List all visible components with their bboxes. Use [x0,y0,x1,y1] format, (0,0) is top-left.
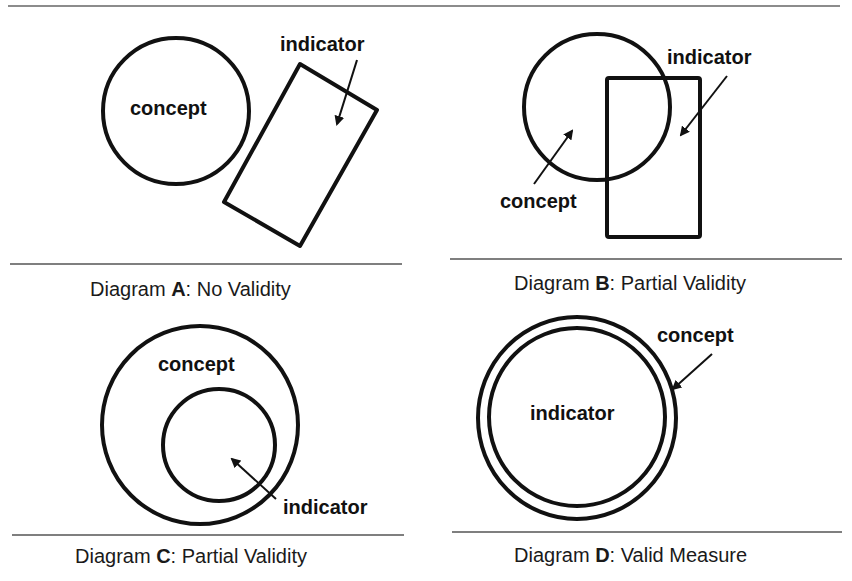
caption-a: Diagram A: No Validity [90,278,291,301]
indicator-rectangle-b [607,78,700,237]
diagram-a: concept indicator [10,33,402,264]
diagram-d: indicator concept [452,317,842,532]
concept-label-c: concept [158,353,235,375]
diagram-c: concept indicator [12,326,404,535]
concept-label-a: concept [130,97,207,119]
indicator-label-b: indicator [667,46,752,68]
diagram-b: indicator concept [450,34,842,259]
caption-b: Diagram B: Partial Validity [514,272,746,295]
indicator-circle-c [163,389,275,501]
arrow-icon [534,131,572,184]
indicator-label-a: indicator [280,33,365,55]
concept-label-d: concept [657,324,734,346]
indicator-label-c: indicator [283,496,368,518]
caption-d: Diagram D: Valid Measure [514,544,747,567]
concept-circle-b [524,34,670,180]
arrow-icon [673,354,712,389]
concept-label-b: concept [500,190,577,212]
arrow-icon [681,76,727,135]
caption-c: Diagram C: Partial Validity [75,545,307,568]
indicator-label-d: indicator [530,402,615,424]
arrow-icon [337,60,357,124]
